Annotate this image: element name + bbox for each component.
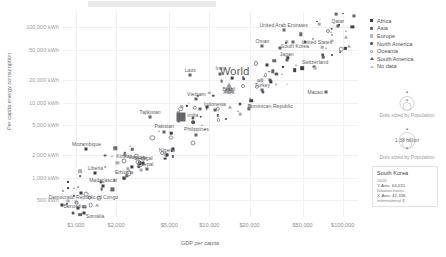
point-label: Burundi — [64, 203, 82, 209]
data-point-kiribati[interactable] — [122, 159, 127, 164]
data-point-ethiopia[interactable] — [123, 176, 126, 179]
data-point-united-arab-emirates[interactable] — [282, 29, 285, 32]
point-label: Macao — [307, 89, 322, 95]
region-legend[interactable]: AfricaAsiaEuropeNorth AmericaOceaniaSout… — [368, 17, 444, 70]
data-point-burundi[interactable] — [60, 204, 63, 207]
data-point-india[interactable] — [176, 112, 185, 121]
data-point — [316, 21, 318, 23]
data-point-macao[interactable] — [325, 90, 328, 93]
size-bubble-dot-top-2 — [406, 129, 408, 131]
data-point-japan[interactable] — [285, 58, 288, 61]
legend-item-oceania[interactable]: Oceania — [368, 47, 444, 55]
point-label: Vietnam — [187, 91, 206, 97]
point-label: Somalia — [86, 213, 104, 219]
data-point — [105, 166, 107, 168]
chart-root: $1,000$2,000$5,000$10,000$20,000$50,000$… — [0, 0, 446, 257]
data-point-tajikistan[interactable] — [149, 116, 152, 119]
data-point-oman[interactable] — [261, 45, 264, 48]
point-label: Laos — [185, 67, 196, 73]
data-point — [293, 68, 297, 72]
data-point-laos[interactable] — [189, 74, 192, 77]
point-label: Kiribati — [116, 153, 132, 159]
data-point — [353, 15, 356, 18]
legend-item-asia[interactable]: Asia — [368, 25, 444, 33]
data-point-switzerland[interactable] — [314, 66, 317, 69]
data-point-nigeria[interactable] — [165, 154, 168, 157]
data-point — [186, 105, 188, 107]
data-point-iran[interactable] — [218, 72, 221, 75]
data-point — [339, 52, 341, 54]
data-point — [83, 204, 87, 207]
data-point — [88, 202, 93, 207]
data-point — [321, 46, 324, 49]
data-point — [281, 73, 283, 75]
x-gridline — [343, 12, 344, 217]
data-point — [330, 27, 333, 30]
data-point-pakistan[interactable] — [163, 130, 166, 133]
size-legend-value: 1.38 billion — [395, 137, 419, 143]
point-label: Liberia — [88, 165, 103, 171]
point-label: Senegal — [134, 155, 153, 161]
data-point-senegal[interactable] — [142, 162, 145, 165]
data-point — [172, 155, 174, 157]
data-point-mozambique[interactable] — [85, 148, 88, 151]
data-point-indonesia[interactable] — [213, 108, 216, 111]
data-point-philippines[interactable] — [195, 133, 198, 136]
data-point — [299, 33, 302, 36]
data-point-vietnam[interactable] — [195, 98, 198, 101]
data-point — [103, 154, 106, 157]
data-point-dominican-republic[interactable] — [239, 103, 242, 106]
y-gridline — [63, 27, 358, 28]
y-axis-tick-label: 50,000 kWh — [29, 47, 59, 53]
data-point — [300, 66, 304, 70]
data-point — [73, 187, 75, 189]
data-point-nepal[interactable] — [145, 168, 148, 171]
tooltip-country: South Korea — [377, 170, 433, 176]
data-point — [188, 103, 190, 105]
size-legend-bubbles-bottom: 1.38 billion — [370, 124, 444, 154]
y-gridline — [63, 200, 358, 201]
point-label: Oman — [256, 38, 270, 44]
data-point — [198, 108, 201, 111]
x-axis-tick-label: $50,000 — [293, 222, 313, 228]
x-axis-tick-label: $100,000 — [331, 222, 354, 228]
legend-marker-icon — [368, 50, 375, 53]
data-point — [272, 59, 275, 62]
data-point — [192, 106, 196, 110]
data-point — [249, 99, 253, 103]
legend-item-south-america[interactable]: South America — [368, 55, 444, 63]
scatter-plot-area[interactable]: $1,000$2,000$5,000$10,000$20,000$50,000$… — [63, 12, 358, 217]
data-point — [241, 84, 245, 88]
data-point — [67, 187, 69, 189]
x-axis-tick-label: $5,000 — [161, 222, 178, 228]
data-point — [275, 82, 277, 85]
point-label: Democratic Republic of Congo — [49, 194, 118, 200]
point-label: Philippines — [184, 126, 209, 132]
data-point — [164, 157, 167, 160]
data-point — [78, 169, 82, 173]
data-point-qatar[interactable] — [336, 25, 339, 28]
legend-item-label: South America — [377, 56, 413, 62]
x-gridline — [169, 12, 170, 217]
x-gridline — [116, 12, 117, 217]
legend-item-label: North America — [377, 41, 412, 47]
legend-item-no-data[interactable]: No data — [368, 63, 444, 71]
legend-item-label: Asia — [377, 25, 388, 31]
legend-marker-icon — [368, 27, 375, 30]
data-point — [345, 30, 347, 32]
legend-item-africa[interactable]: Africa — [368, 17, 444, 25]
data-point — [243, 76, 245, 78]
y-gridline — [63, 50, 358, 51]
point-label: South Korea — [281, 43, 309, 49]
data-point — [331, 34, 333, 36]
legend-item-label: Oceania — [377, 48, 398, 54]
legend-item-europe[interactable]: Europe — [368, 32, 444, 40]
legend-item-north-america[interactable]: North America — [368, 40, 444, 48]
point-label: Madagascar — [89, 177, 117, 183]
data-point-liberia[interactable] — [94, 172, 97, 175]
data-point — [111, 155, 113, 157]
data-point-turkey[interactable] — [261, 89, 264, 92]
data-point-madagascar[interactable] — [102, 184, 105, 187]
data-point — [158, 130, 160, 132]
data-point — [326, 29, 330, 33]
